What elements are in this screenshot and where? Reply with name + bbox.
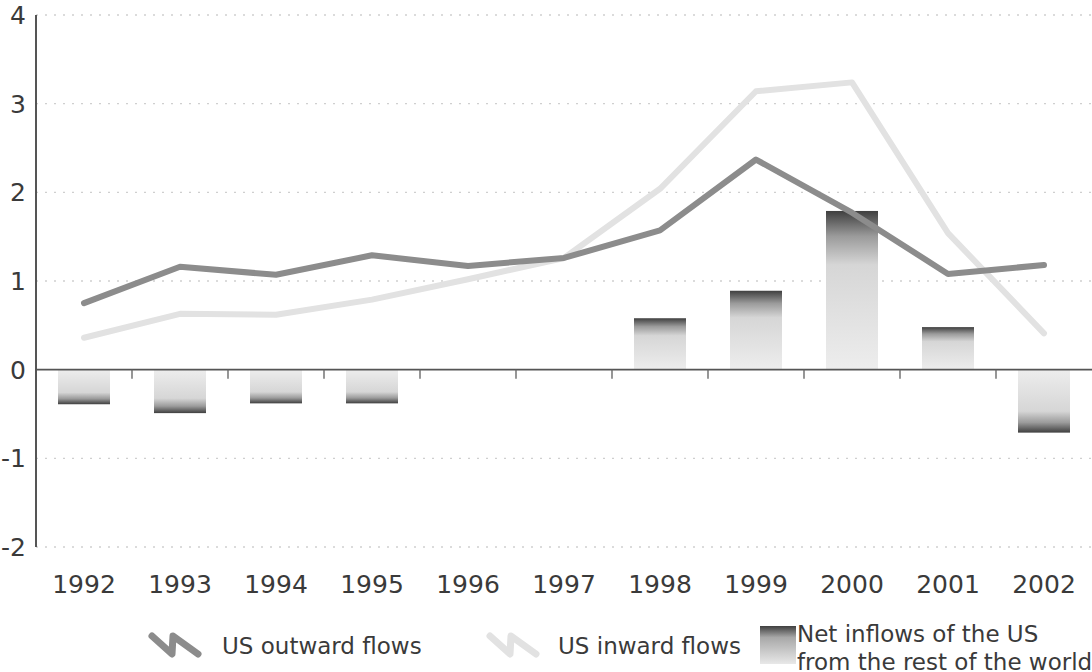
bar-net-inflows-2000 — [826, 211, 878, 370]
zigzag-line-light-icon — [490, 636, 536, 654]
y-tick-label: 2 — [10, 178, 26, 207]
y-tick-label: 4 — [10, 1, 26, 30]
y-tick-label: -2 — [1, 533, 26, 562]
series-line — [84, 82, 1044, 337]
bar-net-inflows-1999 — [730, 291, 782, 370]
zigzag-line-dark-icon — [152, 636, 198, 654]
x-tick-label-1993: 1993 — [148, 570, 212, 599]
x-tick-label-2002: 2002 — [1012, 570, 1076, 599]
bar-net-inflows-2002 — [1018, 370, 1070, 433]
bar-net-inflows-2001 — [922, 327, 974, 370]
x-tick-label-1992: 1992 — [52, 570, 116, 599]
x-tick-label-1999: 1999 — [724, 570, 788, 599]
x-tick-label-2001: 2001 — [916, 570, 980, 599]
bar-net-inflows-1995 — [346, 370, 398, 404]
x-tick-label-1998: 1998 — [628, 570, 692, 599]
gridlines — [36, 15, 1092, 547]
y-tick-labels: -2-101234 — [1, 1, 26, 562]
x-tick-label-1994: 1994 — [244, 570, 308, 599]
y-tick-label: 0 — [10, 356, 26, 385]
legend-label: US inward flows — [558, 633, 741, 659]
bar-net-inflows-1992 — [58, 370, 110, 405]
x-tick-label-1997: 1997 — [532, 570, 596, 599]
chart-container: -2-101234 199219931994199519961997199819… — [0, 0, 1092, 672]
bar-swatch-icon — [760, 626, 796, 664]
y-tick-label: 1 — [10, 267, 26, 296]
bar-net-inflows-1998 — [634, 318, 686, 369]
legend-label: US outward flows — [222, 633, 422, 659]
legend-label-line1: Net inflows of the US — [797, 621, 1038, 647]
chart-legend: US outward flowsUS inward flowsNet inflo… — [152, 621, 1092, 672]
bar-net-inflows-1993 — [154, 370, 206, 413]
x-tick-labels: 1992199319941995199619971998199920002001… — [52, 570, 1076, 599]
bar-net-inflows-1994 — [250, 370, 302, 404]
legend-label-line2: from the rest of the world — [797, 649, 1092, 672]
line-us-inward-flows — [84, 82, 1044, 337]
x-tick-label-1996: 1996 — [436, 570, 500, 599]
y-tick-label: -1 — [1, 444, 26, 473]
bars-net-inflows — [58, 211, 1070, 433]
x-tick-label-1995: 1995 — [340, 570, 404, 599]
x-tick-label-2000: 2000 — [820, 570, 884, 599]
y-tick-label: 3 — [10, 90, 26, 119]
chart-svg: -2-101234 199219931994199519961997199819… — [0, 0, 1092, 672]
